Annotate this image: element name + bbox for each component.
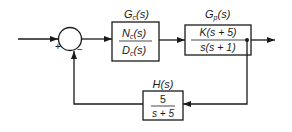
plant-denominator: s(s + 1) [200,41,235,53]
feedback-denominator: s + 5 [152,108,174,119]
controller-denominator: Dc(s) [122,44,147,57]
controller-numerator: Nc(s) [122,27,147,40]
plant-numerator: K(s + 5) [199,26,236,38]
plus-sign: + [55,41,61,52]
plant-label: Gp(s) [205,8,231,22]
minus-sign: − [77,44,83,55]
block-diagram: + − Gc(s) Nc(s) Dc(s) Gp(s) K(s + 5) s(s… [0,0,292,132]
feedback-label: H(s) [153,78,174,90]
feedback-numerator: 5 [160,93,166,105]
controller-label: Gc(s) [124,8,149,21]
